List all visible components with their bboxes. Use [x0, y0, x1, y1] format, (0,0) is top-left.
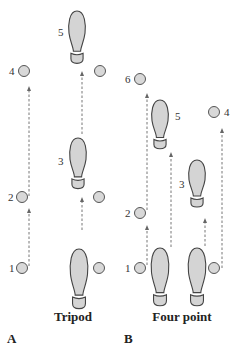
- crutch-circle-icon: [94, 263, 105, 274]
- panel-tripod: 12435TripodA: [7, 11, 106, 346]
- movement-arrow: [220, 128, 224, 268]
- step-number: 4: [224, 106, 230, 118]
- step-number: 5: [175, 110, 181, 122]
- step-number: 5: [58, 26, 64, 38]
- panel-letter: B: [124, 331, 133, 346]
- crutch-tip: 6: [125, 73, 146, 85]
- crutch-circle-icon: [209, 107, 220, 118]
- step-number: 4: [9, 65, 15, 77]
- movement-arrow: [27, 208, 31, 266]
- step-number: 1: [125, 262, 131, 274]
- crutch-tip: 1: [125, 262, 146, 274]
- crutch-tip: 4: [209, 106, 231, 118]
- footprint-icon: 3: [179, 160, 205, 207]
- crutch-circle-icon: [17, 192, 28, 203]
- crutch-circle-icon: [19, 66, 30, 77]
- crutch-tip: 2: [125, 207, 146, 219]
- movement-arrow: [145, 225, 149, 265]
- crutch-circle-icon: [17, 263, 28, 274]
- crutch-tip: 2: [8, 191, 28, 203]
- movement-arrow: [27, 86, 31, 196]
- crutch-circle-icon: [209, 263, 220, 274]
- panel-letter: A: [7, 331, 17, 346]
- crutch-tip: [94, 263, 105, 274]
- step-number: 3: [58, 155, 64, 167]
- crutch-gait-diagram: 12435TripodA 126453Four pointB: [0, 0, 238, 348]
- crutch-tip: 1: [9, 262, 28, 274]
- crutch-tip: [94, 192, 105, 203]
- panel-four-point: 126453Four pointB: [124, 73, 230, 346]
- movement-arrow: [145, 93, 149, 210]
- crutch-circle-icon: [135, 263, 146, 274]
- step-number: 3: [179, 178, 185, 190]
- crutch-circle-icon: [95, 66, 106, 77]
- step-number: 2: [8, 191, 14, 203]
- step-number: 2: [125, 207, 131, 219]
- crutch-circle-icon: [135, 74, 146, 85]
- movement-arrow: [80, 197, 84, 230]
- panel-caption: Four point: [152, 309, 212, 324]
- footprint-icon: 5: [152, 100, 181, 149]
- footprint-icon: 5: [58, 11, 85, 63]
- footprint-icon: [188, 248, 206, 306]
- crutch-tip: [95, 66, 106, 77]
- crutch-tip: 4: [9, 65, 30, 77]
- panel-caption: Tripod: [54, 309, 93, 324]
- footprint-icon: [151, 248, 169, 306]
- crutch-tip: [209, 263, 220, 274]
- movement-arrow: [203, 218, 207, 246]
- step-number: 1: [9, 262, 15, 274]
- crutch-circle-icon: [94, 192, 105, 203]
- movement-arrow: [80, 71, 84, 134]
- movement-arrow: [169, 152, 173, 247]
- crutch-circle-icon: [135, 208, 146, 219]
- footprint-icon: [70, 249, 88, 309]
- footprint-icon: 3: [58, 138, 86, 189]
- step-number: 6: [125, 73, 131, 85]
